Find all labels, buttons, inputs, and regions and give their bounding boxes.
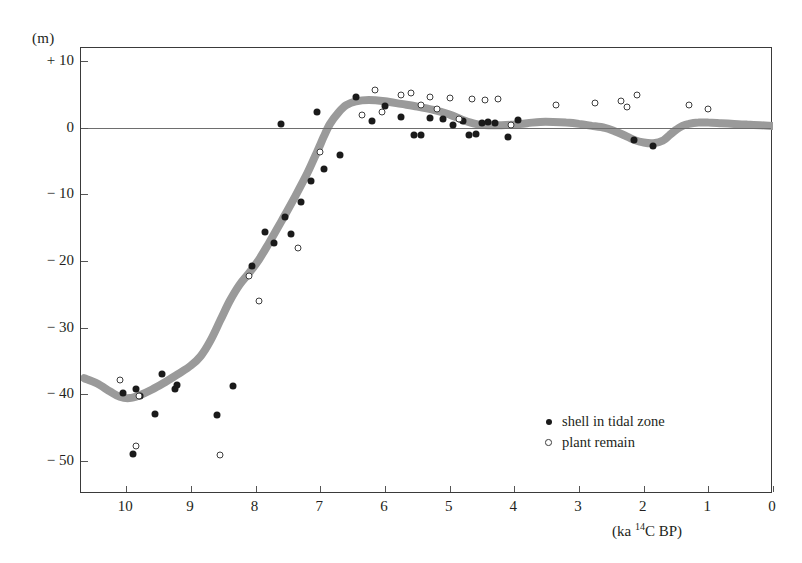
data-point-shell: [491, 120, 498, 127]
data-point-shell: [270, 240, 277, 247]
data-point-shell: [440, 116, 447, 123]
x-tick-label: 8: [251, 498, 259, 515]
data-point-plant: [372, 86, 379, 93]
data-point-plant: [255, 297, 262, 304]
data-point-plant: [592, 99, 599, 106]
data-point-shell: [229, 383, 236, 390]
y-tick-label: − 50: [28, 451, 74, 468]
data-point-plant: [359, 111, 366, 118]
data-point-plant: [132, 443, 139, 450]
x-axis-unit-label: (ka 14C BP): [612, 521, 682, 540]
legend-label-plant: plant remain: [562, 432, 635, 453]
data-point-shell: [650, 142, 657, 149]
data-point-plant: [624, 103, 631, 110]
x-tick-mark: [385, 486, 386, 492]
data-point-plant: [482, 96, 489, 103]
x-tick-mark: [320, 486, 321, 492]
data-point-shell: [417, 131, 424, 138]
y-tick-label: + 10: [28, 52, 74, 69]
data-point-plant: [508, 122, 515, 129]
data-point-shell: [120, 389, 127, 396]
data-point-shell: [398, 114, 405, 121]
x-axis-tick-labels: 109876543210: [0, 498, 802, 522]
data-point-plant: [136, 393, 143, 400]
x-tick-mark: [773, 486, 774, 492]
data-point-plant: [433, 105, 440, 112]
x-tick-label: 1: [704, 498, 712, 515]
data-point-shell: [427, 114, 434, 121]
y-tick-mark: [81, 261, 88, 262]
data-point-plant: [427, 93, 434, 100]
data-point-plant: [469, 95, 476, 102]
x-tick-label: 2: [639, 498, 647, 515]
y-tick-label: 0: [28, 118, 74, 135]
y-tick-label: − 20: [28, 252, 74, 269]
y-tick-mark: [81, 61, 88, 62]
data-point-plant: [618, 98, 625, 105]
data-point-shell: [297, 199, 304, 206]
data-point-shell: [152, 411, 159, 418]
y-tick-mark: [81, 328, 88, 329]
chart-legend: shell in tidal zone plant remain: [542, 411, 665, 453]
x-tick-mark: [450, 486, 451, 492]
x-tick-mark: [708, 486, 709, 492]
y-tick-mark: [81, 128, 88, 129]
data-point-shell: [352, 94, 359, 101]
data-point-plant: [116, 377, 123, 384]
data-point-plant: [705, 106, 712, 113]
data-point-shell: [173, 381, 180, 388]
data-point-plant: [495, 96, 502, 103]
data-point-plant: [294, 244, 301, 251]
data-point-shell: [249, 263, 256, 270]
data-point-plant: [456, 116, 463, 123]
data-point-shell: [369, 117, 376, 124]
data-point-plant: [553, 101, 560, 108]
data-point-plant: [417, 102, 424, 109]
data-point-plant: [407, 90, 414, 97]
data-point-shell: [278, 120, 285, 127]
data-point-shell: [281, 214, 288, 221]
plot-area: [80, 47, 772, 493]
data-point-shell: [449, 121, 456, 128]
data-point-shell: [158, 371, 165, 378]
x-tick-mark: [514, 486, 515, 492]
data-point-plant: [446, 94, 453, 101]
y-tick-mark: [81, 461, 88, 462]
sea-level-curve-figure: (m) + 100− 10− 20− 30− 40− 50 1098765432…: [0, 0, 802, 563]
x-tick-mark: [579, 486, 580, 492]
x-tick-label: 10: [118, 498, 133, 515]
data-point-plant: [246, 273, 253, 280]
y-axis-tick-labels: + 100− 10− 20− 30− 40− 50: [26, 0, 74, 563]
data-point-shell: [336, 152, 343, 159]
x-tick-mark: [126, 486, 127, 492]
legend-item-plant: plant remain: [542, 432, 665, 453]
x-tick-mark: [256, 486, 257, 492]
legend-item-shell: shell in tidal zone: [542, 411, 665, 432]
data-point-shell: [472, 130, 479, 137]
x-tick-label: 7: [316, 498, 324, 515]
x-tick-label: 9: [186, 498, 194, 515]
data-point-shell: [320, 166, 327, 173]
data-point-shell: [504, 134, 511, 141]
data-point-plant: [217, 452, 224, 459]
data-point-plant: [378, 108, 385, 115]
y-tick-label: − 10: [28, 185, 74, 202]
y-tick-label: − 30: [28, 318, 74, 335]
data-point-plant: [685, 102, 692, 109]
y-tick-mark: [81, 194, 88, 195]
x-tick-label: 3: [574, 498, 582, 515]
filled-circle-icon: [542, 419, 555, 425]
y-tick-mark: [81, 394, 88, 395]
data-point-shell: [129, 451, 136, 458]
zero-reference-line: [81, 128, 771, 129]
data-point-shell: [307, 178, 314, 185]
x-tick-mark: [191, 486, 192, 492]
x-tick-label: 0: [768, 498, 776, 515]
x-tick-label: 6: [380, 498, 388, 515]
y-tick-label: − 40: [28, 385, 74, 402]
legend-label-shell: shell in tidal zone: [562, 411, 665, 432]
data-point-shell: [630, 136, 637, 143]
data-point-plant: [634, 91, 641, 98]
data-point-shell: [314, 108, 321, 115]
x-tick-mark: [644, 486, 645, 492]
